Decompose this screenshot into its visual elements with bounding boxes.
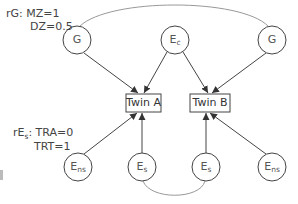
es-right-label: Es bbox=[191, 160, 221, 177]
res-correlation-curve bbox=[143, 181, 205, 195]
arrow-g-to-twin-a bbox=[84, 53, 138, 93]
arrow-ens-to-twin-a bbox=[84, 113, 137, 154]
ens-left-label: Ens bbox=[63, 160, 93, 177]
edge-artifact bbox=[0, 170, 3, 180]
twin-a-label: Twin A bbox=[126, 95, 161, 111]
arrow-ec-to-twin-a bbox=[144, 52, 167, 93]
rg-correlation-curve bbox=[80, 5, 268, 26]
ens-right-label: Ens bbox=[257, 160, 287, 177]
es-left-label: Es bbox=[127, 160, 157, 177]
res-trt-label: TRT=1 bbox=[34, 140, 71, 153]
arrow-ec-to-twin-b bbox=[183, 52, 208, 93]
twin-b-label: Twin B bbox=[190, 95, 230, 111]
ec-label: Ec bbox=[160, 33, 190, 50]
rg-mz-label: rG: MZ=1 bbox=[6, 7, 60, 20]
rg-dz-label: DZ=0.5 bbox=[30, 20, 73, 33]
g-left-label: G bbox=[62, 33, 92, 47]
arrow-g-to-twin-b bbox=[212, 53, 266, 93]
g-right-label: G bbox=[257, 33, 287, 47]
arrow-ens-to-twin-b bbox=[210, 113, 266, 154]
